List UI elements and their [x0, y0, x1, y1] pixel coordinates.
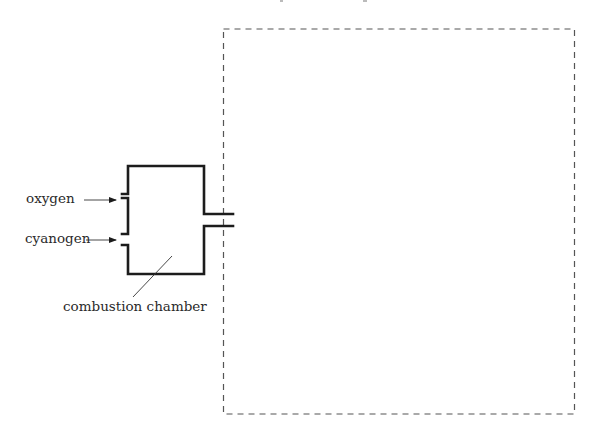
dashed-enclosure: [224, 29, 575, 414]
combustion-chamber-label: combustion chamber: [63, 300, 207, 314]
cropped-heading-fragment: [280, 0, 367, 2]
cyanogen-label: cyanogen: [25, 232, 90, 246]
oxygen-label: oxygen: [26, 192, 75, 206]
combustion-chamber: [122, 166, 233, 274]
chamber-leader-line: [133, 256, 172, 297]
apparatus-diagram: [0, 0, 603, 437]
